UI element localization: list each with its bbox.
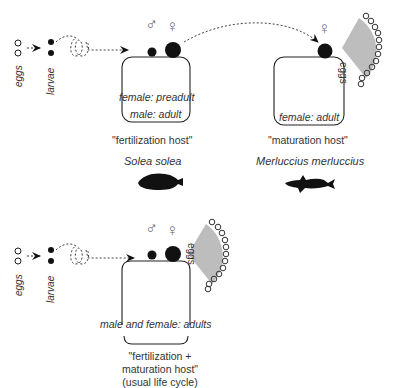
combined-caption-line1: "fertilization + xyxy=(120,350,200,362)
male-symbol: ♂ xyxy=(145,16,158,33)
eggs-label-bottom: eggs xyxy=(13,274,24,296)
larvae-label-top: larvae xyxy=(45,68,56,95)
egg-icons-top xyxy=(15,40,21,56)
female-parasite-icon-maturation xyxy=(318,44,333,59)
egg-icons-bottom xyxy=(15,248,21,264)
larvae-icons-top xyxy=(48,39,54,56)
egg-fan-label-top: eggs xyxy=(338,62,349,84)
female-adult-label: female: adult xyxy=(279,111,339,123)
female-symbol-maturation: ♀ xyxy=(318,20,331,37)
combined-stage-label: male and female: adults xyxy=(100,318,211,330)
female-stage-label: female: preadult xyxy=(119,91,194,103)
arrow-larvae-to-fertilization-host xyxy=(56,36,128,56)
hake-fish-icon xyxy=(285,175,335,193)
female-symbol: ♀ xyxy=(166,18,179,35)
fertilization-host-caption: "fertilization host" xyxy=(112,134,192,146)
male-parasite-icon-bottom xyxy=(148,251,157,260)
larvae-label-bottom: larvae xyxy=(45,276,56,303)
arrow-larvae-to-host-bottom xyxy=(56,244,134,264)
male-stage-label: male: adult xyxy=(130,108,181,120)
male-symbol-bottom: ♂ xyxy=(145,220,158,237)
eggs-label-top: eggs xyxy=(13,65,24,87)
female-parasite-icon xyxy=(165,42,181,58)
male-parasite-icon xyxy=(148,48,157,57)
sole-fish-icon xyxy=(138,173,183,190)
maturation-host-caption: "maturation host" xyxy=(268,134,348,146)
combined-host-box xyxy=(122,261,190,325)
combined-caption-line2: maturation host" xyxy=(110,363,210,375)
arrow-to-maturation-host xyxy=(184,23,318,42)
egg-fan-label-bottom: eggs xyxy=(186,243,197,265)
larvae-icons-bottom xyxy=(48,247,54,264)
merluccius-species-label: Merluccius merluccius xyxy=(256,155,364,167)
combined-caption-line3: (usual life cycle) xyxy=(110,376,210,388)
female-symbol-bottom: ♀ xyxy=(166,222,179,239)
solea-species-label: Solea solea xyxy=(124,155,182,167)
female-parasite-icon-bottom xyxy=(165,246,181,262)
combined-host-bracket xyxy=(124,336,188,344)
